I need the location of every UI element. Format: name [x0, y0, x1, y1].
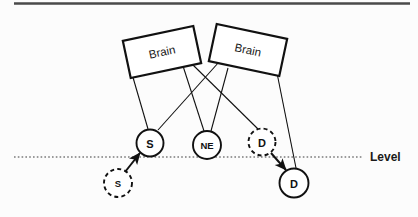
node-ne-solid[interactable]: NE [193, 131, 221, 159]
node-s-solid-label: S [146, 138, 153, 150]
level-line-label: Level [370, 150, 401, 164]
brain-box-left[interactable]: Brain [123, 26, 201, 78]
node-ne-solid-label: NE [200, 140, 213, 151]
brain-box-right[interactable]: Brain [209, 24, 287, 76]
node-d-solid-label: D [290, 178, 298, 190]
connector-brain-right-to-s [158, 62, 219, 130]
connector-brain-left-to-d-dashed [192, 64, 258, 129]
connector-brain-right-to-d-solid [277, 73, 296, 168]
node-d-solid[interactable]: D [280, 169, 309, 198]
arrow-d-dashed-to-d-solid [271, 153, 286, 170]
node-s-dashed-label: S [115, 178, 121, 189]
diagram-figure: Brain Brain S NE D S D [0, 0, 418, 217]
node-s-dashed[interactable]: S [104, 169, 132, 197]
node-d-dashed-label: D [258, 137, 266, 149]
connector-brain-left-to-s [132, 74, 148, 129]
arrow-s-dashed-to-s-solid [125, 153, 140, 172]
node-d-dashed[interactable]: D [249, 129, 276, 156]
node-s-solid[interactable]: S [137, 130, 164, 157]
connector-brain-right-to-ne [211, 68, 228, 131]
diagram-canvas: Brain Brain S NE D S D [0, 0, 418, 217]
